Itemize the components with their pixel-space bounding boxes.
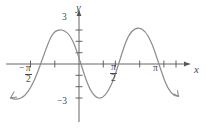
fraction-half-pi: π 2	[110, 63, 117, 84]
x-tick-label-pi: π	[153, 64, 158, 74]
y-axis	[77, 10, 82, 122]
x-tick-label-half-pi: π 2	[110, 63, 117, 84]
curve-left-arrow-icon	[11, 92, 17, 98]
fraction-neg-half-pi: π 2	[25, 64, 32, 85]
x-tick-label-neg-half-pi: − π 2	[19, 64, 32, 85]
x-axis-arrow-icon	[184, 62, 190, 67]
x-axis-label: x	[194, 64, 199, 75]
trig-graph-figure: y x 3 −3 − π 2 π 2 π	[0, 0, 206, 130]
fraction-numerator: π	[110, 63, 117, 74]
fraction-numerator: π	[25, 64, 32, 75]
y-tick-label-3: 3	[62, 13, 67, 23]
x-axis	[6, 62, 190, 67]
y-axis-label: y	[76, 2, 81, 13]
fraction-denominator: 2	[26, 75, 31, 85]
y-tick-label-neg3: −3	[57, 97, 67, 107]
fraction-denominator: 2	[111, 74, 116, 84]
